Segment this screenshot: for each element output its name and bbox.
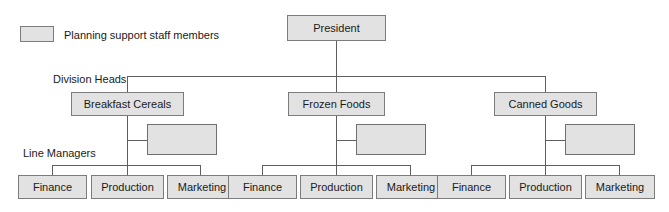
- tier-label-line-managers: Line Managers: [23, 148, 96, 159]
- connector-drop-manager-1-3: [200, 165, 201, 175]
- planning-staff-swatch: [20, 26, 54, 42]
- node-division-1[interactable]: Breakfast Cereals: [71, 92, 184, 116]
- node-manager-3-3[interactable]: Marketing: [585, 175, 655, 199]
- org-chart: Planning support staff members Division …: [0, 0, 669, 212]
- node-planning-staff-1[interactable]: [147, 124, 217, 155]
- connector-drop-manager-3-2: [545, 165, 546, 175]
- connector-president-stem: [336, 41, 337, 76]
- node-planning-staff-3[interactable]: [565, 124, 635, 155]
- connector-drop-division-1: [127, 76, 128, 92]
- node-manager-2-3[interactable]: Marketing: [376, 175, 446, 199]
- connector-staff-1: [127, 140, 147, 141]
- legend-label: Planning support staff members: [64, 30, 219, 41]
- connector-drop-manager-1-2: [127, 165, 128, 175]
- node-manager-1-3[interactable]: Marketing: [167, 175, 237, 199]
- connector-staff-3: [545, 140, 565, 141]
- node-manager-3-2[interactable]: Production: [509, 175, 582, 199]
- node-manager-2-2[interactable]: Production: [300, 175, 373, 199]
- node-president[interactable]: President: [287, 15, 386, 41]
- connector-drop-manager-2-2: [336, 165, 337, 175]
- connector-drop-division-3: [545, 76, 546, 92]
- node-manager-3-1[interactable]: Finance: [437, 175, 506, 199]
- connector-drop-manager-3-3: [619, 165, 620, 175]
- tier-label-division-heads: Division Heads: [53, 74, 126, 85]
- node-manager-2-1[interactable]: Finance: [228, 175, 297, 199]
- node-division-3[interactable]: Canned Goods: [494, 92, 597, 116]
- node-planning-staff-2[interactable]: [356, 124, 426, 155]
- connector-drop-manager-2-1: [262, 165, 263, 175]
- node-manager-1-1[interactable]: Finance: [18, 175, 87, 199]
- node-manager-1-2[interactable]: Production: [91, 175, 164, 199]
- connector-drop-manager-3-1: [471, 165, 472, 175]
- connector-drop-manager-1-1: [52, 165, 53, 175]
- connector-staff-2: [336, 140, 356, 141]
- connector-drop-manager-2-3: [410, 165, 411, 175]
- node-division-2[interactable]: Frozen Foods: [288, 92, 385, 116]
- connector-drop-division-2: [336, 76, 337, 92]
